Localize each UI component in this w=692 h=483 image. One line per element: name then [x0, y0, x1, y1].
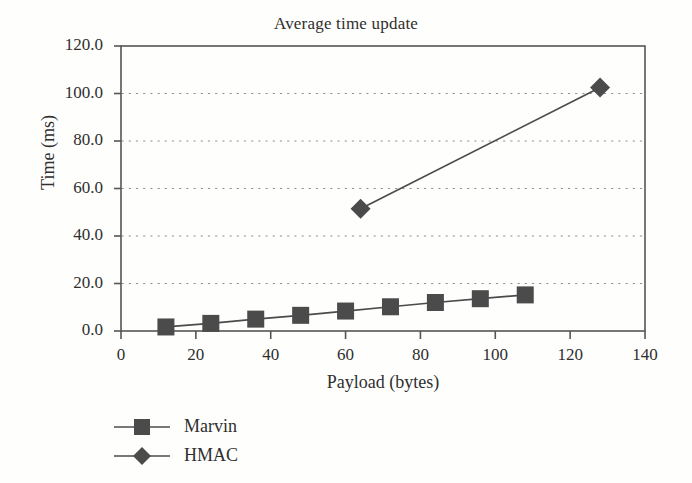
- x-axis-tick-label: 40: [241, 345, 301, 365]
- data-point-marvin[interactable]: [472, 290, 489, 307]
- square-marker-icon: [112, 416, 172, 438]
- legend-item-marvin: Marvin: [112, 412, 238, 441]
- data-point-hmac[interactable]: [351, 199, 371, 219]
- series-line-hmac: [361, 88, 601, 209]
- data-point-marvin[interactable]: [157, 318, 174, 335]
- x-axis-tick-label: 100: [465, 345, 525, 365]
- x-axis-tick-label: 0: [91, 345, 151, 365]
- data-point-marvin[interactable]: [427, 294, 444, 311]
- chart-page: Average time update Time (ms) Payload (b…: [0, 0, 692, 483]
- legend-label-hmac: HMAC: [184, 445, 238, 466]
- y-axis-tick-label: 40.0: [33, 225, 103, 245]
- data-point-marvin[interactable]: [337, 303, 354, 320]
- data-point-marvin[interactable]: [382, 298, 399, 315]
- legend-item-hmac: HMAC: [112, 441, 238, 470]
- x-axis-tick-label: 60: [316, 345, 376, 365]
- data-point-marvin[interactable]: [292, 307, 309, 324]
- y-axis-tick-label: 80.0: [33, 130, 103, 150]
- x-axis-tick-label: 20: [166, 345, 226, 365]
- x-axis-tick-label: 120: [540, 345, 600, 365]
- y-axis-tick-label: 20.0: [33, 273, 103, 293]
- data-point-marvin[interactable]: [517, 286, 534, 303]
- data-point-marvin[interactable]: [247, 311, 264, 328]
- diamond-marker-icon: [112, 445, 172, 467]
- x-axis-tick-label: 80: [390, 345, 450, 365]
- y-axis-tick-label: 0.0: [33, 320, 103, 340]
- plot-area: [0, 0, 692, 483]
- y-axis-tick-label: 100.0: [33, 83, 103, 103]
- chart-legend: Marvin HMAC: [112, 412, 238, 470]
- y-axis-tick-label: 60.0: [33, 178, 103, 198]
- x-axis-tick-label: 140: [615, 345, 675, 365]
- y-axis-tick-label: 120.0: [33, 35, 103, 55]
- data-point-marvin[interactable]: [202, 315, 219, 332]
- data-point-hmac[interactable]: [590, 78, 610, 98]
- legend-label-marvin: Marvin: [184, 416, 237, 437]
